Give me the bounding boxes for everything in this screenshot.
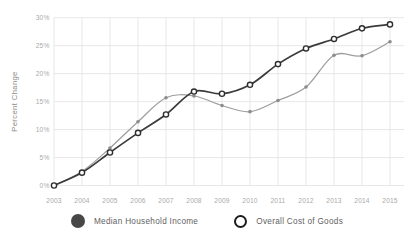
x-axis-tick-label: 2014	[354, 197, 370, 204]
y-axis-tick-label: 0%	[40, 182, 50, 189]
x-axis-tick-label: 2005	[102, 197, 118, 204]
x-axis-tick-label: 2008	[186, 197, 202, 204]
x-axis-tick-label: 2012	[298, 197, 314, 204]
y-axis-tick-label: 15%	[36, 98, 50, 105]
data-point-overall-cost-of-goods	[219, 91, 224, 96]
y-axis-tick-label: 30%	[36, 14, 50, 21]
legend-item-overall-cost-of-goods: Overall Cost of Goods	[234, 215, 343, 228]
data-point-overall-cost-of-goods	[135, 130, 140, 135]
data-point-median-household-income	[136, 120, 140, 124]
y-axis-tick-label: 20%	[36, 70, 50, 77]
data-point-overall-cost-of-goods	[359, 26, 364, 31]
chart-legend: Median Household Income Overall Cost of …	[0, 209, 414, 233]
legend-label-median-household-income: Median Household Income	[94, 217, 198, 226]
data-point-overall-cost-of-goods	[303, 46, 308, 51]
data-point-overall-cost-of-goods	[79, 170, 84, 175]
data-point-overall-cost-of-goods	[163, 112, 168, 117]
data-point-median-household-income	[164, 96, 168, 100]
data-point-median-household-income	[220, 104, 224, 108]
y-axis-title: Percent Change	[10, 71, 19, 131]
filled-circle-marker-icon	[71, 214, 85, 228]
chart-figure: 0%5%10%15%20%25%30%200320042005200620072…	[0, 0, 414, 242]
data-point-median-household-income	[332, 53, 336, 57]
y-axis-tick-label: 5%	[40, 154, 50, 161]
x-axis-tick-label: 2013	[326, 197, 342, 204]
x-axis-tick-label: 2009	[214, 197, 230, 204]
data-point-median-household-income	[304, 85, 308, 89]
legend-item-median-household-income: Median Household Income	[71, 214, 198, 228]
data-point-overall-cost-of-goods	[275, 62, 280, 67]
y-axis-tick-label: 10%	[36, 126, 50, 133]
data-point-overall-cost-of-goods	[51, 183, 56, 188]
data-point-overall-cost-of-goods	[107, 150, 112, 155]
data-point-median-household-income	[276, 99, 280, 103]
x-axis-tick-label: 2003	[46, 197, 62, 204]
line-chart-canvas: 0%5%10%15%20%25%30%200320042005200620072…	[0, 0, 414, 210]
data-point-median-household-income	[248, 110, 252, 114]
data-point-median-household-income	[388, 40, 392, 44]
data-point-overall-cost-of-goods	[247, 82, 252, 87]
data-point-overall-cost-of-goods	[191, 89, 196, 94]
x-axis-tick-label: 2011	[271, 197, 286, 204]
legend-label-overall-cost-of-goods: Overall Cost of Goods	[256, 217, 343, 226]
y-axis-tick-label: 25%	[36, 42, 50, 49]
x-axis-tick-label: 2004	[74, 197, 90, 204]
data-point-median-household-income	[360, 54, 364, 58]
data-point-overall-cost-of-goods	[387, 22, 392, 27]
open-circle-marker-icon	[234, 215, 247, 228]
x-axis-tick-label: 2010	[242, 197, 258, 204]
x-axis-tick-label: 2006	[130, 197, 146, 204]
x-axis-tick-label: 2007	[158, 197, 174, 204]
x-axis-tick-label: 2015	[382, 197, 398, 204]
data-point-overall-cost-of-goods	[331, 36, 336, 41]
